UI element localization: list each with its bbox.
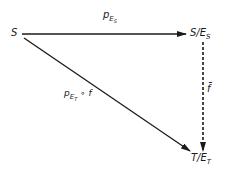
node-s: S: [11, 28, 17, 38]
node-t-quotient: T/ET: [191, 153, 211, 163]
diagram-arrows: [0, 0, 226, 170]
label-top-arrow: pES: [103, 10, 117, 20]
node-s-quotient: S/ES: [190, 28, 211, 38]
commutative-diagram: S S/ES T/ET pES pET ∘ f f̄: [0, 0, 226, 170]
arrow-diagonal: [24, 38, 190, 151]
label-right-arrow: f̄: [207, 84, 211, 94]
label-diagonal-arrow: pET ∘ f: [64, 89, 92, 98]
